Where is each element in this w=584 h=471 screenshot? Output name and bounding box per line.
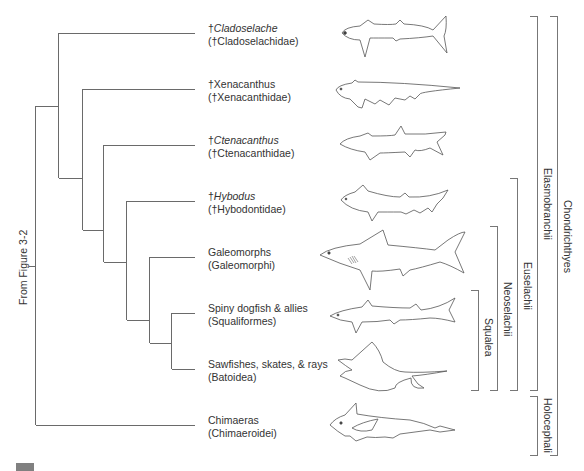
hybodus-fish-icon [341,185,448,221]
ctenacanthus-fish-icon [340,126,446,160]
label-holocephali: Holocephali [542,398,554,453]
taxon-family: (Galeomorphi) [208,259,275,272]
taxon-batoids: Sawfishes, skates, & rays (Batoidea) [208,358,328,384]
taxon-ctenacanthus: †Ctenacanthus (†Ctenacanthidae) [208,134,294,160]
label-euselachii: Euselachii [522,262,534,310]
cladoselache-fish-icon [342,16,447,57]
bracket-elasmobranchii [530,17,538,391]
spiny-dogfish-icon [330,298,455,333]
label-neoselachii: Neoselachii [502,282,514,336]
cladogram-lines [0,0,584,471]
galeomorph-shark-icon [320,230,465,290]
taxon-chimaeras: Chimaeras (Chimaeroidei) [208,414,277,440]
taxon-family: (Chimaeroidei) [208,427,277,440]
xenacanthus-fish-icon [336,80,460,108]
taxon-family: (†Xenacanthidae) [208,91,291,104]
taxon-name: †Ctenacanthus [208,134,294,147]
ray-icon [338,342,447,391]
label-squalea: Squalea [483,318,495,357]
bracket-neoselachii [490,227,498,391]
root-label: From Figure 3-2 [17,230,29,305]
taxon-family: (†Ctenacanthidae) [208,147,294,160]
bracket-squalea [471,291,479,391]
taxon-family: (Squaliformes) [208,315,308,328]
taxon-name: Spiny dogfish & allies [208,302,308,315]
taxon-family: (†Hybodontidae) [208,203,286,216]
bracket-holocephali [530,397,538,456]
label-elasmobranchii: Elasmobranchii [542,168,554,240]
taxon-cladoselache: †Cladoselache (†Cladoselachidae) [208,22,298,48]
taxon-galeomorphs: Galeomorphs (Galeomorphi) [208,246,275,272]
taxon-name: Galeomorphs [208,246,275,259]
taxon-xenacanthus: †Xenacanthus (†Xenacanthidae) [208,78,291,104]
taxon-family: (Batoidea) [208,371,328,384]
chimaera-icon [330,403,455,441]
taxon-hybodus: †Hybodus (†Hybodontidae) [208,190,286,216]
taxon-name: †Hybodus [208,190,286,203]
label-chondrichthyes: Chondrichthyes [562,200,574,273]
taxon-family: (†Cladoselachidae) [208,35,298,48]
taxon-name: Chimaeras [208,414,277,427]
figure-marker [16,463,34,471]
taxon-name: †Xenacanthus [208,78,291,91]
taxon-spiny-dogfish: Spiny dogfish & allies (Squaliformes) [208,302,308,328]
taxon-name: †Cladoselache [208,22,298,35]
taxon-name: Sawfishes, skates, & rays [208,358,328,371]
